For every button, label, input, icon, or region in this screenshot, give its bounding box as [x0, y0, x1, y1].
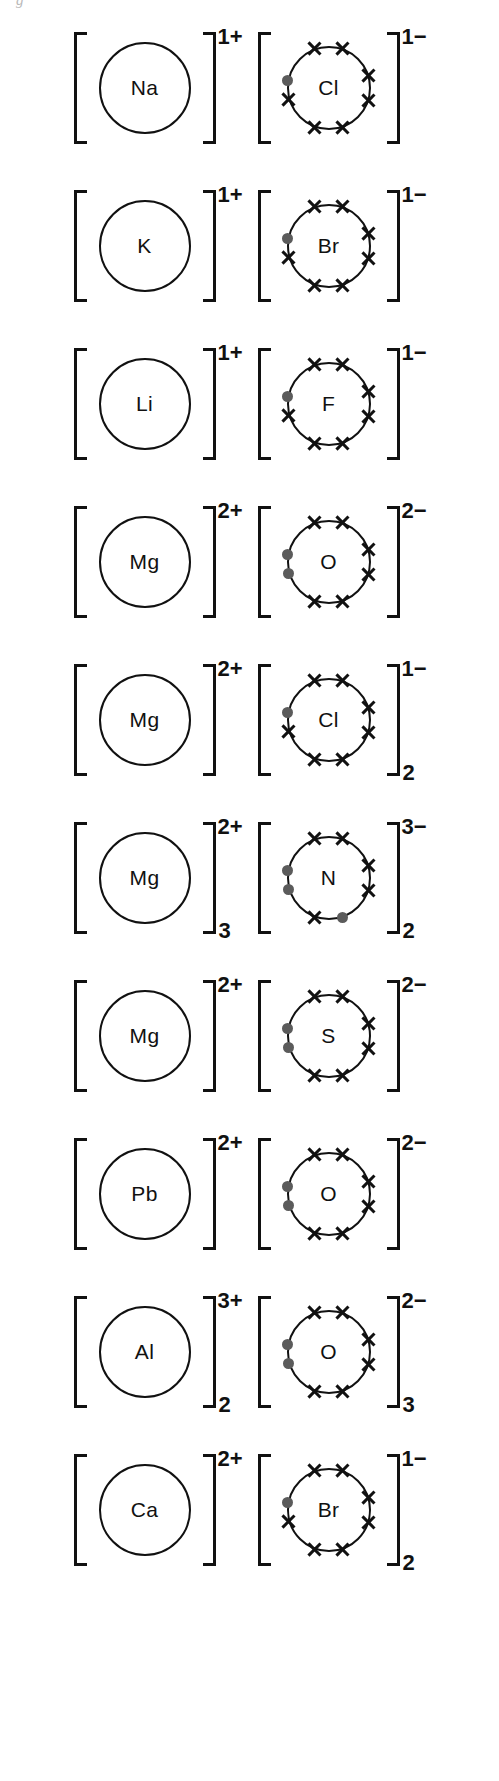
anion-circle: O: [273, 1296, 385, 1408]
left-square-bracket: [74, 980, 87, 1092]
ion-charge-label: 2+: [218, 1132, 243, 1154]
ionic-compound-row: Mg2+Cl1−2: [0, 640, 499, 800]
element-symbol: K: [89, 190, 201, 302]
charge-and-subscript: 2+: [216, 980, 242, 1092]
ionic-compound-row: Al3+2O2−3: [0, 1272, 499, 1432]
right-square-bracket: [387, 664, 400, 776]
ion-charge-label: 1+: [218, 184, 243, 206]
ion-charge-label: 1+: [218, 342, 243, 364]
charge-and-subscript: 2−: [400, 980, 426, 1092]
ion-charge-label: 2+: [218, 658, 243, 680]
charge-and-subscript: 2+: [216, 1138, 242, 1250]
charge-and-subscript: 2+: [216, 506, 242, 618]
element-symbol: Li: [89, 348, 201, 460]
formula-subscript: 3: [403, 1394, 415, 1416]
cation-unit: Pb2+: [74, 1138, 242, 1250]
anion-circle: Cl: [273, 32, 385, 144]
cation-circle: Mg: [89, 822, 201, 934]
anion-unit: O2−: [258, 1138, 426, 1250]
anion-unit: Cl1−: [258, 32, 426, 144]
ionic-compound-row: Mg2+O2−: [0, 482, 499, 642]
ion-charge-label: 3+: [218, 1290, 243, 1312]
ion-charge-label: 2+: [218, 1448, 243, 1470]
right-square-bracket: [387, 190, 400, 302]
cation-unit: Al3+2: [74, 1296, 242, 1408]
anion-unit: F1−: [258, 348, 426, 460]
anion-circle: O: [273, 1138, 385, 1250]
left-square-bracket: [74, 822, 87, 934]
anion-circle: S: [273, 980, 385, 1092]
element-symbol: Na: [89, 32, 201, 144]
cation-circle: Ca: [89, 1454, 201, 1566]
cation-unit: Mg2+: [74, 980, 242, 1092]
element-symbol: F: [273, 348, 385, 460]
right-square-bracket: [203, 664, 216, 776]
left-square-bracket: [258, 664, 271, 776]
cation-unit: Mg2+3: [74, 822, 242, 934]
charge-and-subscript: 2−: [400, 1138, 426, 1250]
left-square-bracket: [258, 822, 271, 934]
element-symbol: Mg: [89, 822, 201, 934]
ion-charge-label: 2+: [218, 974, 243, 996]
ion-charge-label: 2−: [402, 974, 427, 996]
left-square-bracket: [258, 32, 271, 144]
formula-subscript: 2: [403, 920, 415, 942]
cation-circle: Li: [89, 348, 201, 460]
formula-subscript: 2: [403, 1552, 415, 1574]
ionic-diagram-sheet: Na1+Cl1−K1+Br1−Li1+F1−Mg2+O2−Mg2+Cl1−2Mg…: [0, 0, 499, 1781]
element-symbol: Al: [89, 1296, 201, 1408]
right-square-bracket: [387, 822, 400, 934]
ion-charge-label: 3−: [402, 816, 427, 838]
charge-and-subscript: 2−3: [400, 1296, 426, 1408]
left-square-bracket: [74, 1454, 87, 1566]
cation-circle: Pb: [89, 1138, 201, 1250]
left-square-bracket: [74, 1138, 87, 1250]
ionic-compound-row: K1+Br1−: [0, 166, 499, 326]
formula-subscript: 2: [219, 1394, 231, 1416]
anion-circle: N: [273, 822, 385, 934]
element-symbol: Br: [273, 190, 385, 302]
right-square-bracket: [387, 348, 400, 460]
anion-unit: S2−: [258, 980, 426, 1092]
right-square-bracket: [387, 1138, 400, 1250]
anion-unit: N3−2: [258, 822, 426, 934]
ion-charge-label: 1−: [402, 342, 427, 364]
element-symbol: Br: [273, 1454, 385, 1566]
charge-and-subscript: 3−2: [400, 822, 426, 934]
element-symbol: Pb: [89, 1138, 201, 1250]
charge-and-subscript: 1−: [400, 32, 426, 144]
charge-and-subscript: 2+3: [216, 822, 242, 934]
ion-charge-label: 2−: [402, 1290, 427, 1312]
cation-circle: Mg: [89, 980, 201, 1092]
cation-unit: Na1+: [74, 32, 242, 144]
right-square-bracket: [203, 1296, 216, 1408]
cation-circle: K: [89, 190, 201, 302]
anion-circle: O: [273, 506, 385, 618]
left-square-bracket: [74, 32, 87, 144]
ionic-compound-row: Ca2+Br1−2: [0, 1430, 499, 1590]
anion-unit: Br1−2: [258, 1454, 426, 1566]
ion-charge-label: 1−: [402, 1448, 427, 1470]
right-square-bracket: [387, 1454, 400, 1566]
ionic-compound-row: Mg2+S2−: [0, 956, 499, 1116]
ion-charge-label: 1+: [218, 26, 243, 48]
left-square-bracket: [74, 348, 87, 460]
right-square-bracket: [203, 1138, 216, 1250]
anion-unit: Br1−: [258, 190, 426, 302]
charge-and-subscript: 2+: [216, 664, 242, 776]
ion-charge-label: 2+: [218, 500, 243, 522]
right-square-bracket: [203, 190, 216, 302]
cation-unit: Ca2+: [74, 1454, 242, 1566]
element-symbol: Ca: [89, 1454, 201, 1566]
charge-and-subscript: 1+: [216, 190, 242, 302]
element-symbol: S: [273, 980, 385, 1092]
ion-charge-label: 2+: [218, 816, 243, 838]
ion-charge-label: 1−: [402, 26, 427, 48]
anion-circle: Br: [273, 190, 385, 302]
left-square-bracket: [258, 980, 271, 1092]
formula-subscript: 2: [403, 762, 415, 784]
left-square-bracket: [258, 1296, 271, 1408]
formula-subscript: 3: [219, 920, 231, 942]
cation-circle: Mg: [89, 506, 201, 618]
anion-circle: Br: [273, 1454, 385, 1566]
